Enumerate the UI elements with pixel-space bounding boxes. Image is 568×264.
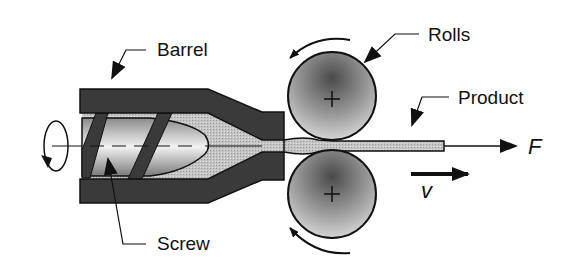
roll-bottom — [288, 150, 376, 238]
screw-label: Screw — [157, 233, 210, 254]
barrel-label: Barrel — [157, 39, 208, 60]
barrel-leader-icon — [112, 50, 146, 78]
extrusion-diagram: F v Barrel Rolls Product Screw — [0, 0, 568, 264]
product-strip — [284, 138, 444, 154]
product-leader-icon — [412, 97, 449, 125]
force-label: F — [528, 134, 543, 159]
roll-top — [288, 52, 376, 140]
rolls-leader-icon — [365, 34, 419, 62]
rolls-label: Rolls — [428, 24, 470, 45]
velocity-label: v — [421, 178, 434, 203]
product-label: Product — [458, 87, 524, 108]
